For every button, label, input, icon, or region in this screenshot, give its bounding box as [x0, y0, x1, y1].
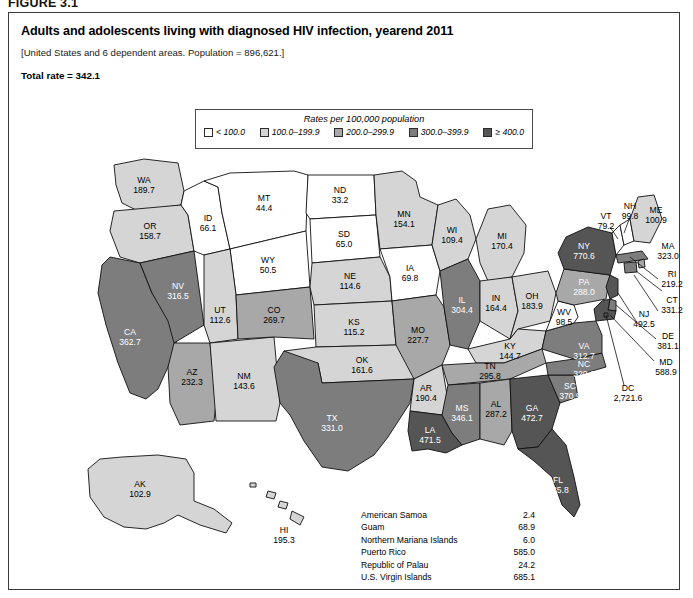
state-label-code-MD: MD: [659, 357, 672, 367]
territory-value: 24.2: [458, 560, 536, 572]
state-label-code-WY: WY: [261, 255, 275, 265]
state-label-code-MT: MT: [258, 193, 271, 203]
state-label-rate-KS: 115.2: [344, 327, 365, 337]
state-label-code-LA: LA: [425, 425, 436, 435]
state-label-rate-IL: 304.4: [451, 305, 473, 315]
state-label-rate-IN: 164.4: [485, 303, 507, 313]
state-label-rate-AK: 102.9: [129, 489, 151, 499]
state-label-rate-AZ: 232.3: [181, 377, 203, 387]
state-label-code-AZ: AZ: [187, 367, 198, 377]
territory-row: Puerto Rico585.0: [361, 547, 535, 559]
legend-items: < 100.0100.0–199.9200.0–299.9300.0–399.9…: [196, 124, 532, 137]
state-label-code-MA: MA: [662, 241, 675, 251]
state-label-rate-NC: 320.2: [573, 369, 595, 379]
state-label-rate-SC: 370.9: [559, 391, 581, 401]
legend-swatch: [409, 128, 418, 137]
state-label-rate-MD: 588.9: [655, 367, 677, 377]
state-label-rate-MA: 323.0: [657, 251, 679, 261]
state-label-code-WA: WA: [137, 175, 151, 185]
state-label-code-AR: AR: [420, 383, 432, 393]
state-label-code-NC: NC: [578, 359, 590, 369]
state-label-rate-AL: 287.2: [485, 409, 507, 419]
map-legend: Rates per 100,000 population < 100.0100.…: [195, 109, 533, 149]
state-label-rate-MN: 154.1: [393, 219, 415, 229]
state-label-code-ME: ME: [650, 205, 663, 215]
state-label-rate-OR: 158.7: [139, 231, 161, 241]
legend-item-3: 300.0–399.9: [409, 127, 469, 137]
state-label-code-TX: TX: [327, 413, 338, 423]
state-label-rate-PA: 288.0: [573, 287, 595, 297]
figure-subtitle: [United States and 6 dependent areas. Po…: [21, 47, 284, 58]
state-HI[interactable]: [250, 483, 304, 525]
state-label-rate-LA: 471.5: [419, 435, 441, 445]
figure-number: FIGURE 3.1: [8, 0, 78, 10]
legend-item-0: < 100.0: [204, 127, 245, 137]
state-label-rate-ND: 33.2: [332, 195, 349, 205]
legend-item-2: 200.0–299.9: [334, 127, 394, 137]
state-label-rate-MT: 44.4: [256, 203, 273, 213]
state-label-code-UT: UT: [214, 305, 226, 315]
state-label-code-FL: FL: [553, 475, 563, 485]
state-label-code-IL: IL: [458, 295, 465, 305]
figure-page: FIGURE 3.1 Adults and adolescents living…: [0, 0, 693, 598]
leader-line-3: [636, 271, 662, 291]
state-label-code-KY: KY: [504, 341, 516, 351]
state-label-code-AK: AK: [134, 479, 146, 489]
state-CT[interactable]: [624, 262, 637, 273]
state-label-code-NY: NY: [578, 241, 590, 251]
state-label-rate-IA: 69.8: [402, 273, 419, 283]
state-label-rate-WV: 98.5: [556, 317, 573, 327]
state-label-code-NM: NM: [237, 371, 250, 381]
territory-row: U.S. Virgin Islands685.1: [361, 572, 535, 584]
state-label-rate-ID: 66.1: [200, 223, 217, 233]
state-label-code-MS: MS: [456, 403, 469, 413]
territory-value: 2.4: [458, 510, 536, 522]
legend-title: Rates per 100,000 population: [196, 114, 532, 124]
state-label-rate-CT: 331.2: [661, 305, 683, 315]
territory-row: Northern Mariana Islands6.0: [361, 535, 535, 547]
state-label-rate-UT: 112.6: [210, 315, 231, 325]
state-label-rate-OH: 183.9: [521, 301, 543, 311]
figure-title: Adults and adolescents living with diagn…: [21, 24, 453, 38]
state-label-code-RI: RI: [668, 269, 677, 279]
state-label-code-VA: VA: [579, 341, 590, 351]
figure-frame: Adults and adolescents living with diagn…: [8, 12, 680, 590]
state-label-code-NJ: NJ: [639, 309, 650, 319]
state-label-code-AL: AL: [491, 399, 502, 409]
state-label-code-CA: CA: [124, 327, 136, 337]
state-label-rate-NM: 143.6: [233, 381, 255, 391]
legend-swatch: [334, 128, 343, 137]
state-label-code-CO: CO: [268, 305, 281, 315]
state-label-code-IN: IN: [492, 293, 501, 303]
state-label-code-NV: NV: [172, 281, 184, 291]
state-label-rate-CO: 269.7: [263, 315, 285, 325]
state-AK[interactable]: [88, 455, 232, 533]
state-label-rate-MS: 346.1: [451, 413, 473, 423]
legend-item-1: 100.0–199.9: [260, 127, 320, 137]
state-label-code-OR: OR: [144, 221, 157, 231]
state-label-code-DC: DC: [622, 383, 634, 393]
state-RI[interactable]: [638, 259, 645, 268]
state-label-rate-SD: 65.0: [336, 239, 353, 249]
territory-name: U.S. Virgin Islands: [361, 572, 458, 584]
state-label-rate-RI: 219.2: [661, 279, 683, 289]
legend-swatch: [260, 128, 269, 137]
state-label-rate-AR: 190.4: [415, 393, 437, 403]
state-label-code-WV: WV: [557, 307, 571, 317]
state-label-code-WI: WI: [447, 225, 458, 235]
territory-name: Northern Mariana Islands: [361, 535, 458, 547]
state-label-rate-VT: 79.2: [598, 221, 615, 231]
state-label-code-PA: PA: [579, 277, 590, 287]
state-label-code-SD: SD: [338, 229, 350, 239]
state-label-rate-NJ: 492.5: [633, 319, 655, 329]
state-label-code-KS: KS: [348, 317, 360, 327]
state-label-rate-TX: 331.0: [321, 423, 343, 433]
state-label-rate-MO: 227.7: [407, 335, 429, 345]
state-label-rate-GA: 472.7: [521, 413, 543, 423]
state-label-rate-WY: 50.5: [260, 265, 277, 275]
state-label-code-CT: CT: [666, 295, 678, 305]
state-label-rate-TN: 295.8: [479, 371, 501, 381]
state-label-rate-DC: 2,721.6: [614, 393, 643, 403]
territory-value: 6.0: [458, 535, 536, 547]
territory-value: 585.0: [458, 547, 536, 559]
